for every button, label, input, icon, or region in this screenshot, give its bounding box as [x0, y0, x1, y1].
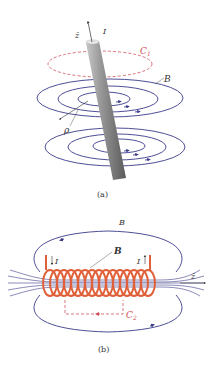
current-left-label: I	[54, 257, 59, 266]
caption-b: (b)	[98, 345, 109, 354]
radius-label: ρ	[63, 125, 70, 135]
contour-c2	[65, 300, 123, 314]
wire	[86, 40, 126, 180]
current-right-label: I	[136, 257, 141, 266]
z-axis-arrow	[88, 22, 92, 42]
field-label: B	[163, 74, 171, 84]
figure-a: ρ ẑ I C1 B (a)	[37, 22, 185, 199]
electromagnetism-diagram: ρ ẑ I C1 B (a)	[0, 0, 216, 368]
inner-field-label: B	[113, 246, 122, 256]
current-label: I	[102, 27, 107, 36]
contour-c1-label: C1	[140, 46, 151, 57]
figure-b: I I B B ẑ C2 (b)	[8, 218, 205, 354]
contour-c2-label: C2	[126, 310, 137, 321]
z-axis-label-b: ẑ	[190, 272, 196, 281]
z-axis-label: ẑ	[74, 31, 80, 40]
caption-a: (a)	[97, 190, 108, 199]
outer-field-label: B	[118, 218, 125, 227]
